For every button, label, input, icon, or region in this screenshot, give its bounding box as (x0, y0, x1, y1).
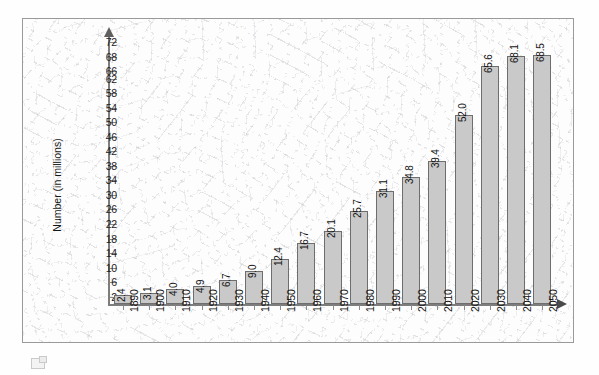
y-axis-tick-label-row: 22 (75, 219, 117, 229)
bar-value-label: 6.7 (221, 273, 232, 286)
y-axis-tick-label: 14 (91, 248, 117, 258)
bar-value-label: 34.8 (404, 166, 415, 185)
y-axis-tick-label-row: 50 (75, 117, 117, 127)
x-axis-tick (359, 305, 360, 310)
x-axis-tick (490, 305, 491, 310)
x-axis-tick-label: 1910 (180, 289, 192, 312)
bar (481, 66, 499, 304)
y-axis-tick-label-row: 46 (75, 132, 117, 142)
bar (376, 191, 394, 304)
y-axis-tick-label: 18 (91, 234, 117, 244)
x-axis-tick (228, 305, 229, 310)
y-axis-tick-label: 58 (91, 88, 117, 98)
y-axis-tick-label: 68 (91, 52, 117, 62)
bar (402, 177, 420, 304)
y-axis-tick-label: 10 (91, 263, 117, 273)
x-axis-tick-label: 1890 (128, 289, 140, 312)
x-axis-tick-label: 2050 (547, 289, 559, 312)
y-axis-tick-label-row: 18 (75, 234, 117, 244)
x-axis-tick-label: 1970 (338, 289, 350, 312)
x-axis-tick-label: 2010 (442, 289, 454, 312)
bar-value-label: 9.0 (247, 265, 258, 278)
bar (507, 56, 525, 304)
y-axis-tick-label: 72 (91, 37, 117, 47)
y-axis-tick-label: 22 (91, 219, 117, 229)
x-axis-tick (333, 305, 334, 310)
y-axis-tick-label: 46 (91, 132, 117, 142)
y-axis-tick-label: 50 (91, 117, 117, 127)
x-axis-tick-label: 1950 (285, 289, 297, 312)
bar-value-label: 68.1 (509, 45, 520, 64)
y-axis-tick-label: 54 (91, 103, 117, 113)
y-axis-tick-label: 42 (91, 146, 117, 156)
y-axis-tick-label-row: 38 (75, 161, 117, 171)
x-axis-tick (437, 305, 438, 310)
x-axis-tick-label: 1940 (259, 289, 271, 312)
y-axis-tick-label-row: 10 (75, 263, 117, 273)
bar-value-label: 20.1 (326, 219, 337, 238)
x-axis-tick-label: 2030 (495, 289, 507, 312)
bar (455, 115, 473, 304)
bar-value-label: 65.6 (483, 54, 494, 73)
x-axis-tick (464, 305, 465, 310)
x-axis-tick-label: 2000 (416, 289, 428, 312)
bar-value-label: 39.4 (430, 149, 441, 168)
y-axis-tick-label: 38 (91, 161, 117, 171)
page-thumbnail-icon (31, 356, 47, 368)
x-axis-tick-label: 1920 (207, 289, 219, 312)
x-axis-tick (385, 305, 386, 310)
x-axis-tick-label: 1980 (364, 289, 376, 312)
y-axis-tick-label-row: 26 (75, 204, 117, 214)
bar-value-label: 12.4 (273, 247, 284, 266)
y-axis-tick-label: 30 (91, 190, 117, 200)
y-axis-tick-label: 6 (91, 277, 117, 287)
scanned-page: Number (in millions) 7268666258545046423… (0, 0, 599, 375)
x-axis-tick (542, 305, 543, 310)
y-axis-tick-label-row: 42 (75, 146, 117, 156)
x-axis-tick (149, 305, 150, 310)
x-axis-tick-label: 2040 (521, 289, 533, 312)
bar-value-label: 4.0 (168, 283, 179, 296)
bar-value-label: 52.0 (457, 103, 468, 122)
bar-value-label: 68.5 (535, 43, 546, 62)
bar-value-label: 25.7 (352, 199, 363, 218)
bar (533, 55, 551, 304)
bar (428, 161, 446, 304)
x-axis-tick-label: 2020 (469, 289, 481, 312)
y-axis-tick-label: 26 (91, 204, 117, 214)
bar-value-label: 4.9 (195, 280, 206, 293)
bar-value-label: 16.7 (299, 232, 310, 251)
page-thumbnail-corner (39, 356, 47, 363)
y-axis-tick-label-row: 2 (75, 292, 117, 302)
x-axis-tick-label: 1960 (311, 289, 323, 312)
y-axis-tick-label-row: 30 (75, 190, 117, 200)
x-axis-tick (280, 305, 281, 310)
y-axis-tick-label: 34 (91, 175, 117, 185)
x-axis-tick-label: 1990 (390, 289, 402, 312)
bar-value-label: 2.4 (116, 289, 127, 302)
x-axis-tick (202, 305, 203, 310)
y-axis-tick-label-row: 58 (75, 88, 117, 98)
y-axis-tick-label-row: 72 (75, 37, 117, 47)
y-axis-tick-label-row: 6 (75, 277, 117, 287)
y-axis-tick-label-row: 34 (75, 175, 117, 185)
bar-value-label: 3.1 (142, 286, 153, 299)
y-axis-tick-label-row: 14 (75, 248, 117, 258)
x-axis-tick-label: 1900 (154, 289, 166, 312)
x-axis-tick (175, 305, 176, 310)
y-axis-tick-label: 62 (91, 74, 117, 84)
y-axis-tick-label-row: 54 (75, 103, 117, 113)
x-axis-tick (411, 305, 412, 310)
x-axis-tick (516, 305, 517, 310)
y-axis-tick-label-row: 68 (75, 52, 117, 62)
x-axis-tick (306, 305, 307, 310)
x-axis-tick (123, 305, 124, 310)
bar-value-label: 31.1 (378, 179, 389, 198)
y-axis-tick-label-row: 62 (75, 74, 117, 84)
x-axis-tick (254, 305, 255, 310)
x-axis-tick-label: 1930 (233, 289, 245, 312)
y-axis-title: Number (in millions) (51, 115, 63, 255)
bar-chart-plot-area: Number (in millions) 7268666258545046423… (23, 19, 573, 342)
chart-frame: Number (in millions) 7268666258545046423… (22, 18, 574, 343)
